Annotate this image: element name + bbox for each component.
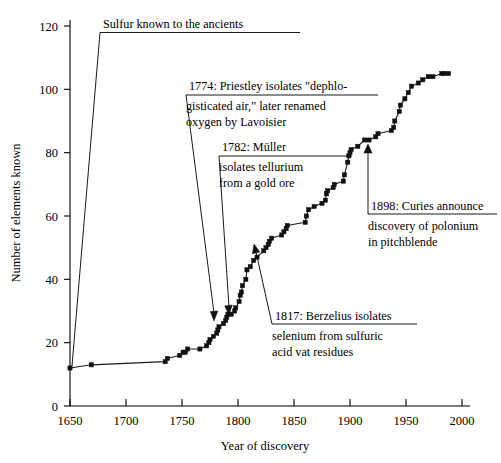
- data-point-marker: [304, 214, 308, 218]
- data-point-marker: [376, 132, 380, 136]
- data-point-marker: [431, 75, 435, 79]
- annotation-layer: Sulfur known to the ancients 1774: Pries…: [72, 17, 497, 366]
- chart-canvas: 020406080100120 165017001750180018501900…: [0, 0, 501, 463]
- data-point-marker: [349, 147, 353, 151]
- annotation-curies: 1898: Curies announce discovery of polon…: [364, 144, 497, 249]
- data-point-marker: [303, 220, 307, 224]
- data-point-marker: [237, 299, 241, 303]
- data-point-marker: [312, 204, 316, 208]
- y-tick-label: 80: [46, 146, 59, 160]
- y-tick-label: 0: [52, 400, 58, 414]
- annotation-berzelius-line-3: acid vat residues: [272, 345, 353, 359]
- y-tick-label: 20: [46, 336, 59, 350]
- x-tick-label: 1750: [170, 414, 195, 428]
- data-point-marker: [362, 138, 366, 142]
- annotation-sulfur-leader: [72, 33, 100, 367]
- data-point-marker: [446, 71, 450, 75]
- data-point-marker: [244, 277, 248, 281]
- annotation-curies-line-2: discovery of polonium: [368, 219, 479, 233]
- annotation-priestley-line-2: gisticated air," later renamed: [186, 99, 326, 113]
- data-point-marker: [442, 71, 446, 75]
- annotation-berzelius: 1817: Berzelius isolates selenium from s…: [252, 244, 417, 359]
- annotation-muller-line-1: 1782: Müller: [222, 140, 286, 154]
- annotation-priestley-line-3: oxygen by Lavoisier: [186, 115, 286, 129]
- y-axis-title: Number of elements known: [9, 143, 23, 283]
- data-point-marker: [234, 306, 238, 310]
- x-tick-label: 1950: [394, 414, 419, 428]
- data-point-marker: [367, 138, 371, 142]
- annotation-berzelius-arrowhead: [252, 244, 260, 254]
- data-point-marker: [323, 198, 327, 202]
- annotation-muller-line-2: isolates tellurium: [219, 160, 304, 174]
- data-point-marker: [342, 173, 346, 177]
- data-point-marker: [416, 81, 420, 85]
- data-point-marker: [421, 78, 425, 82]
- data-point-marker: [397, 109, 401, 113]
- annotation-sulfur-line-1: Sulfur known to the ancients: [103, 17, 243, 31]
- annotation-berzelius-leader: [256, 252, 272, 324]
- y-tick-label: 40: [46, 273, 59, 287]
- data-point-marker: [239, 290, 243, 294]
- data-point-marker: [240, 284, 244, 288]
- data-point-marker: [326, 189, 330, 193]
- data-point-marker: [198, 347, 202, 351]
- data-point-marker: [426, 75, 430, 79]
- data-point-marker: [217, 325, 221, 329]
- x-tick-label: 1900: [338, 414, 363, 428]
- data-point-marker: [398, 103, 402, 107]
- y-axis-ticks: 020406080100120: [39, 20, 70, 414]
- annotation-curies-line-3: in pitchblende: [368, 235, 437, 249]
- data-point-marker: [186, 347, 190, 351]
- y-tick-label: 120: [39, 20, 58, 34]
- chart-axes: [70, 20, 470, 406]
- data-point-marker: [341, 179, 345, 183]
- data-point-marker: [410, 84, 414, 88]
- data-point-marker: [68, 366, 72, 370]
- x-tick-label: 1800: [226, 414, 251, 428]
- data-point-marker: [89, 363, 93, 367]
- data-point-marker: [332, 182, 336, 186]
- x-axis-ticks: 16501700175018001850190019502000: [58, 399, 475, 428]
- annotation-sulfur: Sulfur known to the ancients: [72, 17, 300, 366]
- data-point-marker: [406, 90, 410, 94]
- annotation-priestley-arrowhead: [210, 311, 218, 321]
- data-point-marker: [393, 119, 397, 123]
- data-point-marker: [285, 223, 289, 227]
- x-tick-label: 2000: [450, 414, 475, 428]
- annotation-curies-line-1: 1898: Curies announce: [371, 199, 483, 213]
- annotation-priestley-line-1: 1774: Priestley isolates "dephlo-: [189, 79, 347, 93]
- data-point-marker: [165, 356, 169, 360]
- annotation-berzelius-line-2: selenium from sulfuric: [272, 329, 384, 343]
- annotation-priestley: 1774: Priestley isolates "dephlo- gistic…: [186, 79, 378, 321]
- data-point-marker: [346, 160, 350, 164]
- data-point-marker: [356, 144, 360, 148]
- y-tick-label: 60: [46, 210, 59, 224]
- data-point-marker: [306, 208, 310, 212]
- annotation-berzelius-line-1: 1817: Berzelius isolates: [275, 309, 392, 323]
- data-point-marker: [248, 265, 252, 269]
- x-tick-label: 1850: [282, 414, 307, 428]
- annotation-curies-arrowhead: [364, 144, 372, 153]
- y-tick-label: 100: [39, 83, 58, 97]
- x-tick-label: 1650: [58, 414, 83, 428]
- x-tick-label: 1700: [114, 414, 139, 428]
- x-axis-title: Year of discovery: [221, 439, 310, 453]
- data-point-marker: [403, 97, 407, 101]
- annotation-muller-line-3: from a gold ore: [219, 176, 294, 190]
- data-point-marker: [270, 236, 274, 240]
- elements-discovery-chart: 020406080100120 165017001750180018501900…: [0, 0, 501, 463]
- data-point-marker: [392, 125, 396, 129]
